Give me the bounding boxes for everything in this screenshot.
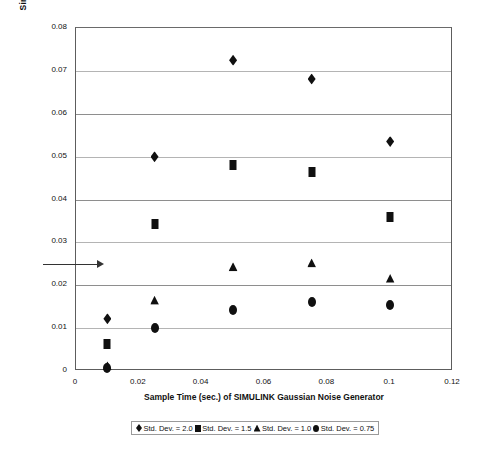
gridline — [76, 157, 451, 158]
y-tick-label: 0.01 — [33, 322, 67, 331]
data-point — [307, 258, 316, 267]
data-point — [386, 300, 394, 310]
annotation-arrow-head — [97, 260, 104, 268]
x-tick-label: 0.12 — [432, 377, 472, 386]
x-tick-label: 0.04 — [181, 377, 221, 386]
data-point — [386, 274, 395, 283]
y-tick-label: 0.06 — [33, 108, 67, 117]
legend-item-label: Std. Dev. = 1.5 — [202, 424, 251, 433]
data-point — [308, 297, 316, 307]
diamond-marker-icon — [136, 424, 142, 432]
gridline — [76, 71, 451, 72]
annotation-arrow-line — [43, 264, 97, 265]
data-point — [151, 151, 159, 162]
legend-item: Std. Dev. = 1.5 — [194, 424, 253, 433]
data-point — [308, 74, 316, 85]
data-point — [151, 219, 158, 229]
gridline — [76, 200, 451, 201]
x-tick-label: 0.02 — [118, 377, 158, 386]
data-point — [229, 262, 238, 271]
gridline — [76, 285, 451, 286]
x-axis-title: Sample Time (sec.) of SIMULINK Gaussian … — [75, 392, 453, 402]
circle-marker-icon — [313, 425, 319, 432]
chart-legend: Std. Dev. = 2.0Std. Dev. = 1.5Std. Dev. … — [131, 421, 379, 435]
gridline — [76, 242, 451, 243]
gridline — [76, 328, 451, 329]
legend-item: Std. Dev. = 2.0 — [135, 424, 194, 433]
y-tick-label: 0.08 — [33, 22, 67, 31]
legend-item: Std. Dev. = 1.0 — [253, 424, 313, 433]
data-point — [386, 136, 394, 147]
x-tick-label: 0.08 — [306, 377, 346, 386]
data-point — [229, 55, 237, 66]
legend-item-label: Std. Dev. = 2.0 — [144, 424, 193, 433]
data-point — [229, 305, 237, 315]
x-tick-label: 0 — [55, 377, 95, 386]
plot-area — [75, 27, 452, 370]
legend-item: Std. Dev. = 0.75 — [312, 424, 375, 433]
data-point — [230, 160, 237, 170]
y-tick-label: 0.07 — [33, 65, 67, 74]
legend-item-label: Std. Dev. = 0.75 — [321, 424, 374, 433]
y-tick-label: 0.02 — [33, 279, 67, 288]
triangle-marker-icon — [254, 425, 261, 432]
data-point — [103, 313, 111, 324]
data-point — [104, 339, 111, 349]
x-tick-label: 0.06 — [244, 377, 284, 386]
y-tick-label: 0.04 — [33, 194, 67, 203]
legend-item-label: Std. Dev. = 1.0 — [262, 424, 311, 433]
y-tick-label: 0.05 — [33, 151, 67, 160]
gridline — [76, 114, 451, 115]
x-tick-label: 0.1 — [369, 377, 409, 386]
chart-figure: Simulation Error Rate (match to Q-functi… — [0, 0, 482, 454]
data-point — [151, 323, 159, 333]
data-point — [308, 167, 315, 177]
data-point — [103, 363, 111, 373]
y-tick-label: 0 — [33, 365, 67, 374]
data-point — [150, 296, 159, 305]
y-tick-label: 0.03 — [33, 236, 67, 245]
data-point — [387, 212, 394, 222]
square-marker-icon — [195, 425, 201, 432]
y-axis-title: Simulation Error Rate (match to Q-functi… — [14, 0, 32, 63]
